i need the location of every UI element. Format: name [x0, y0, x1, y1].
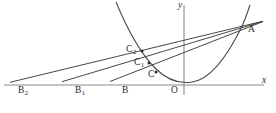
- y-axis-label: y: [178, 1, 182, 11]
- x-axis-label-text: x: [262, 75, 266, 85]
- point-label-c2-subscript: 2: [133, 48, 136, 55]
- point-label-a: A: [248, 25, 255, 35]
- point-label-c1: C1: [134, 58, 144, 68]
- point-label-c: C: [148, 70, 154, 80]
- point-label-a-text: A: [248, 24, 255, 34]
- parabola-figure: B2 B1 B O C2 C1 C A x y: [0, 0, 276, 113]
- point-label-b1-text: B: [75, 85, 81, 95]
- point-label-c2: C2: [126, 45, 136, 55]
- point-label-b2: B2: [18, 86, 28, 96]
- point-label-b2-subscript: 2: [25, 89, 28, 96]
- point-label-c1-text: C: [134, 57, 140, 67]
- origin-label-text: O: [171, 85, 178, 95]
- y-axis-label-text: y: [178, 0, 182, 10]
- point-label-b1-subscript: 1: [82, 89, 85, 96]
- point-marker-c2: [141, 50, 144, 53]
- point-label-b-text: B: [122, 85, 128, 95]
- point-label-c-text: C: [148, 69, 154, 79]
- secant-line-b1-a: [62, 21, 263, 81]
- point-marker-c1: [148, 62, 151, 65]
- x-axis-label: x: [262, 76, 266, 86]
- point-label-c1-subscript: 1: [141, 61, 144, 68]
- secant-line-b2-a: [10, 21, 263, 82]
- point-label-c2-text: C: [126, 44, 132, 54]
- parabola-curve: [116, 2, 250, 82]
- point-label-b2-text: B: [18, 85, 24, 95]
- point-marker-c: [155, 71, 158, 74]
- point-label-b1: B1: [75, 86, 85, 96]
- point-label-b: B: [122, 86, 128, 96]
- origin-label: O: [171, 86, 178, 96]
